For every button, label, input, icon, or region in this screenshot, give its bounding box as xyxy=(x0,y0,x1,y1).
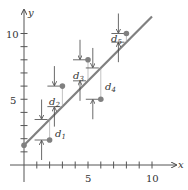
d2-label: d2 xyxy=(49,96,60,109)
x-axis-label: x xyxy=(178,159,184,170)
data-point xyxy=(85,57,91,63)
d1-label: d1 xyxy=(55,128,66,141)
d5-label: d5 xyxy=(111,33,122,46)
regression-diagram: x y 5 10 5 10 d1 d2 d3 d4 d5 xyxy=(0,0,188,190)
data-point xyxy=(60,83,66,89)
y-tick-label-10: 10 xyxy=(6,29,19,40)
x-tick-label-5: 5 xyxy=(85,173,91,184)
line-intercept-point xyxy=(21,142,27,148)
data-point xyxy=(98,96,104,102)
data-point xyxy=(124,31,130,37)
d4-label: d4 xyxy=(105,81,116,94)
x-tick-label-10: 10 xyxy=(146,173,159,184)
y-axis-label: y xyxy=(27,7,34,18)
axes xyxy=(10,10,176,182)
y-tick-label-5: 5 xyxy=(10,95,16,106)
data-point xyxy=(47,137,53,143)
